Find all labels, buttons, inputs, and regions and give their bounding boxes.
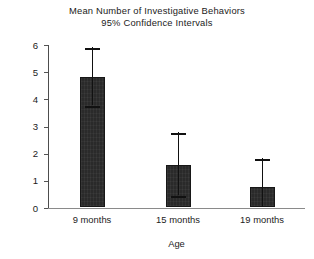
- y-tick-3: 3: [44, 127, 48, 128]
- y-tick-5: 5: [44, 72, 48, 73]
- y-tick-label-3: 3: [10, 120, 38, 133]
- chart-title-line-1: Mean Number of Investigative Behaviors: [69, 5, 245, 16]
- error-bar-lower-cap-15-months: [171, 196, 186, 198]
- error-bar-line-15-months: [178, 132, 179, 194]
- chart-title-line-2: 95% Confidence Intervals: [0, 17, 314, 29]
- y-tick-6: 6: [44, 45, 48, 46]
- y-tick-label-6: 6: [10, 39, 38, 52]
- y-tick-label-4: 4: [10, 93, 38, 106]
- error-bar-upper-cap-9-months: [85, 48, 100, 50]
- y-tick-0: 0: [44, 208, 48, 209]
- x-axis-line: [48, 208, 305, 209]
- y-tick-label-5: 5: [10, 66, 38, 79]
- chart-title: Mean Number of Investigative Behaviors 9…: [0, 5, 314, 28]
- y-tick-label-0: 0: [10, 202, 38, 215]
- error-bar-line-9-months: [92, 47, 93, 105]
- plot-area: 0123456 9 months15 months19 months: [48, 45, 305, 208]
- y-tick-4: 4: [44, 99, 48, 100]
- y-tick-2: 2: [44, 154, 48, 155]
- error-bar-line-19-months: [262, 158, 263, 207]
- error-bar-upper-cap-19-months: [255, 159, 270, 161]
- x-tick-label-9-months: 9 months: [57, 213, 127, 226]
- error-bar-lower-cap-9-months: [85, 106, 100, 108]
- x-tick-label-19-months: 19 months: [227, 213, 297, 226]
- x-axis-label: Age: [48, 237, 305, 250]
- y-tick-label-2: 2: [10, 147, 38, 160]
- chart-figure: Mean Number of Investigative Behaviors 9…: [0, 0, 314, 259]
- y-tick-label-1: 1: [10, 174, 38, 187]
- x-tick-label-15-months: 15 months: [143, 213, 213, 226]
- y-tick-1: 1: [44, 181, 48, 182]
- y-axis-line: [48, 45, 49, 209]
- error-bar-upper-cap-15-months: [171, 133, 186, 135]
